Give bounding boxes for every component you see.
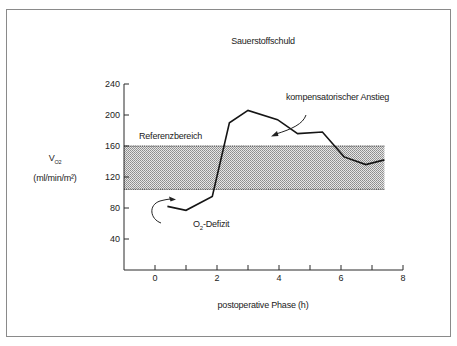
y-tick-label: 200 — [105, 110, 120, 120]
compensation-label: kompensatorischer Anstieg — [286, 92, 389, 102]
x-tick-label: 6 — [338, 273, 343, 283]
chart-title: Sauerstoffschuld — [231, 36, 295, 46]
y-tick-label: 120 — [105, 172, 120, 182]
y-tick-label: 80 — [110, 203, 120, 213]
x-axis-ticks: 02468 — [152, 265, 405, 283]
reference-band-label: Referenzbereich — [139, 131, 202, 141]
y-axis-unit: (ml/min/m²) — [24, 173, 86, 183]
deficit-arrow-icon — [152, 197, 176, 224]
y-tick-label: 160 — [105, 141, 120, 151]
x-tick-label: 0 — [152, 273, 157, 283]
y-subscript: O2 — [54, 159, 61, 165]
deficit-label: O2-Defizit — [193, 219, 230, 231]
x-tick-label: 4 — [276, 273, 281, 283]
x-tick-label: 8 — [400, 273, 405, 283]
reference-band — [124, 146, 384, 189]
y-tick-label: 240 — [105, 79, 120, 89]
x-tick-label: 2 — [214, 273, 219, 283]
y-axis-symbol: VO2 — [24, 153, 86, 165]
x-axis-label: postoperative Phase (h) — [218, 300, 309, 310]
y-tick-label: 40 — [110, 234, 120, 244]
